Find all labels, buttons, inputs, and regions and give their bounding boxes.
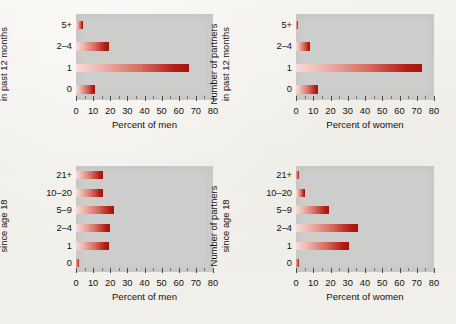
bar	[296, 85, 318, 94]
y-axis-tick-label: 0	[20, 84, 72, 94]
plot-area	[76, 166, 213, 272]
x-axis-tick-label: 70	[412, 106, 422, 116]
x-axis-tick-label: 30	[343, 106, 353, 116]
x-axis-tick-label: 10	[308, 278, 318, 288]
x-axis-major-tick	[382, 96, 383, 101]
x-axis-major-tick	[434, 268, 435, 273]
y-axis-title-line-1: Number of partners	[208, 18, 220, 110]
x-axis-minor-tick	[425, 268, 426, 271]
bar	[76, 224, 110, 232]
bar	[76, 42, 109, 51]
x-axis-major-tick	[296, 268, 297, 273]
bar	[296, 64, 422, 73]
x-axis-tick-label: 10	[88, 278, 98, 288]
x-axis-major-tick	[365, 96, 366, 101]
x-axis-tick-label: 80	[429, 278, 439, 288]
y-axis-tick-label: 1	[240, 63, 292, 73]
x-axis-minor-tick	[305, 96, 306, 99]
x-axis-tick-label: 20	[325, 106, 335, 116]
x-axis-major-tick	[400, 96, 401, 101]
x-axis-tick-label: 50	[156, 106, 166, 116]
x-axis-minor-tick	[322, 96, 323, 99]
bar	[76, 21, 83, 30]
y-axis-title-line-1: Number of partners	[208, 170, 220, 282]
bar	[76, 171, 103, 179]
x-axis-minor-tick	[425, 96, 426, 99]
y-axis-tick-label: 2–4	[240, 223, 292, 233]
x-axis-minor-tick	[339, 96, 340, 99]
bar	[296, 224, 358, 232]
y-axis-tick-label: 21+	[20, 170, 72, 180]
y-axis-tick-label: 5–9	[20, 205, 72, 215]
x-axis-tick-label: 0	[73, 278, 78, 288]
y-axis-tick-label: 1	[20, 241, 72, 251]
bar	[296, 42, 310, 51]
x-axis-tick-label: 30	[122, 106, 132, 116]
y-axis-tick-label: 21+	[240, 170, 292, 180]
x-axis-tick-label: 70	[191, 106, 201, 116]
bar	[296, 242, 349, 250]
y-axis-tick-label: 2–4	[20, 223, 72, 233]
x-axis-major-tick	[417, 268, 418, 273]
bar	[296, 21, 298, 30]
x-axis-tick-label: 10	[308, 106, 318, 116]
x-axis-major-tick	[331, 268, 332, 273]
bar	[76, 242, 109, 250]
x-axis-tick-label: 40	[360, 278, 370, 288]
bar	[76, 189, 103, 197]
x-axis-tick-label: 40	[139, 106, 149, 116]
bar	[296, 259, 299, 267]
x-axis-tick-label: 50	[377, 278, 387, 288]
plot-area	[296, 166, 434, 272]
x-axis-tick-label: 50	[156, 278, 166, 288]
x-axis-tick-label: 0	[293, 106, 298, 116]
x-axis-major-tick	[348, 96, 349, 101]
x-axis-tick-label: 50	[377, 106, 387, 116]
x-axis-minor-tick	[374, 268, 375, 271]
x-axis-tick-label: 70	[191, 278, 201, 288]
x-axis-title: Percent of women	[296, 291, 434, 302]
x-axis-major-tick	[434, 96, 435, 101]
x-axis-major-tick	[400, 268, 401, 273]
y-axis-title-line-2: since age 18	[0, 170, 10, 282]
x-axis-major-tick	[331, 96, 332, 101]
x-axis-tick-label: 40	[139, 278, 149, 288]
x-axis-major-tick	[313, 96, 314, 101]
x-axis-tick-label: 0	[293, 278, 298, 288]
x-axis-major-tick	[365, 268, 366, 273]
bar	[296, 206, 329, 214]
x-axis-minor-tick	[322, 268, 323, 271]
y-axis-tick-label: 5–9	[240, 205, 292, 215]
x-axis-minor-tick	[408, 268, 409, 271]
bar	[76, 64, 189, 73]
x-axis-major-tick	[382, 268, 383, 273]
x-axis-minor-tick	[408, 96, 409, 99]
x-axis-minor-tick	[391, 268, 392, 271]
y-axis-tick-label: 5+	[20, 20, 72, 30]
y-axis-tick-label: 5+	[240, 20, 292, 30]
x-axis-tick-label: 20	[325, 278, 335, 288]
x-axis-tick-label: 80	[429, 106, 439, 116]
bar	[76, 206, 114, 214]
x-axis-tick-label: 60	[174, 106, 184, 116]
x-axis-minor-tick	[391, 96, 392, 99]
x-axis-major-tick	[417, 96, 418, 101]
x-axis-tick-label: 10	[88, 106, 98, 116]
y-axis-tick-label: 0	[240, 84, 292, 94]
y-axis-tick-label: 10–20	[240, 188, 292, 198]
x-axis-tick-label: 40	[360, 106, 370, 116]
y-axis-tick-label: 0	[20, 258, 72, 268]
y-axis-title-line-2: since age 18	[220, 170, 232, 282]
bar	[76, 85, 95, 94]
x-axis-tick-label: 60	[394, 106, 404, 116]
y-axis-tick-label: 10–20	[20, 188, 72, 198]
x-axis-tick-label: 20	[105, 278, 115, 288]
x-axis-tick-label: 0	[73, 106, 78, 116]
x-axis-major-tick	[348, 268, 349, 273]
y-axis-tick-label: 1	[240, 241, 292, 251]
x-axis-tick-label: 30	[343, 278, 353, 288]
x-axis-tick-label: 70	[412, 278, 422, 288]
x-axis-tick-label: 60	[394, 278, 404, 288]
bar	[296, 189, 305, 197]
bar	[76, 259, 79, 267]
